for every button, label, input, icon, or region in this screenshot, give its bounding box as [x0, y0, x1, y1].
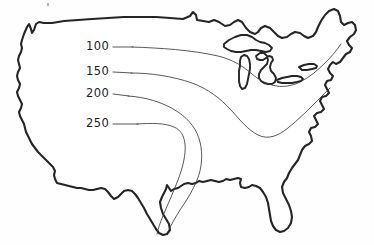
- contour-label-150: 150: [86, 66, 109, 78]
- contour-label-200: 200: [86, 88, 109, 100]
- contour-label-100: 100: [86, 41, 109, 53]
- lake-ontario-path: [299, 64, 317, 70]
- us-outline-path: [17, 9, 356, 235]
- map-canvas: [0, 0, 374, 245]
- contour-map-figure: 100 150 200 250: [0, 0, 374, 245]
- contour-label-250: 250: [86, 118, 109, 130]
